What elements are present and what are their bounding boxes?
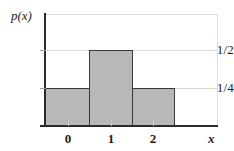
x-axis-line — [40, 125, 218, 127]
x-tick-label-1: 1 — [101, 131, 121, 147]
probability-mass-function-chart: 1/2 1/4 0 1 2 p(x) x — [0, 0, 234, 151]
y-tick-label-half: 1/2 — [192, 42, 234, 58]
x-axis-title: x — [208, 131, 215, 147]
x-tick-mark-1 — [111, 119, 112, 126]
x-tick-label-2: 2 — [143, 131, 163, 147]
x-tick-label-0: 0 — [58, 131, 78, 147]
bar-category-1 — [89, 50, 133, 127]
y-tick-mark-half — [40, 50, 46, 51]
y-axis-line — [44, 13, 46, 127]
x-tick-mark-2 — [153, 119, 154, 126]
x-tick-mark-0 — [68, 119, 69, 126]
y-axis-title: p(x) — [11, 8, 32, 24]
y-tick-label-quarter: 1/4 — [192, 80, 234, 96]
y-tick-mark-quarter — [40, 88, 46, 89]
